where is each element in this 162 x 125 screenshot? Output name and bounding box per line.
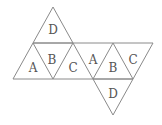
label-c-right: C bbox=[128, 53, 137, 67]
label-bottom-d: D bbox=[108, 87, 118, 101]
label-b-left: B bbox=[48, 53, 57, 67]
face-labels: D A B C A B C D bbox=[28, 23, 138, 101]
label-b-right: B bbox=[109, 61, 118, 75]
label-a-right: A bbox=[88, 53, 98, 67]
tetrahedron-net-diagram: D A B C A B C D bbox=[0, 0, 162, 125]
label-c-left: C bbox=[68, 61, 77, 75]
label-top-d: D bbox=[48, 23, 58, 37]
label-a-left: A bbox=[28, 61, 38, 75]
